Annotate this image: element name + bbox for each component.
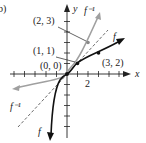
point-origin [65, 72, 69, 76]
point-2-3 [86, 41, 90, 45]
f-arrow-right-icon [116, 38, 125, 45]
label-f-inverse-left: f⁻¹ [10, 101, 21, 112]
y-axis-arrow-icon [64, 4, 70, 12]
label-f-bottom: f [38, 126, 42, 137]
part-label: b) [0, 3, 6, 15]
identity-line [18, 30, 108, 127]
y-axis-label: y [72, 3, 78, 14]
label-point-0-0: (0, 0) [40, 60, 62, 72]
point-3-2 [97, 51, 101, 55]
x-tick-label: 2 [85, 78, 90, 89]
f-arrow-down-icon [47, 132, 54, 141]
label-point-1-1: (1, 1) [33, 45, 55, 57]
label-f-inverse-top: f⁻¹ [84, 5, 95, 16]
point-1-1 [76, 62, 80, 66]
function-inverse-diagram: b) x 2 [0, 0, 146, 143]
x-axis-label: x [134, 68, 140, 79]
f-inverse-arrow-right-icon [95, 12, 101, 20]
leader-2-3 [58, 27, 86, 41]
label-f-right: f [113, 31, 117, 42]
f-inverse-arrow-left-icon [12, 85, 20, 91]
x-axis-arrow-icon [123, 71, 131, 77]
label-point-2-3: (2, 3) [33, 15, 55, 27]
label-point-3-2: (3, 2) [102, 57, 124, 69]
